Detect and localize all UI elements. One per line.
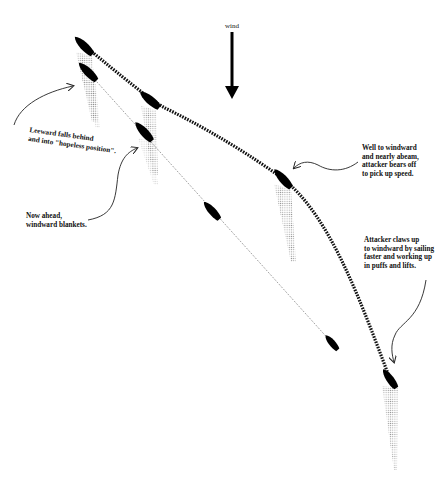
wind-arrow-icon: [225, 32, 239, 99]
leeward-boat-3: [201, 200, 222, 222]
windward-boat-2: [137, 88, 161, 110]
leeward-boat-4: [323, 333, 340, 352]
annotation-now-ahead: Now ahead, windward blankets.: [26, 212, 87, 229]
windward-track: [85, 46, 390, 379]
windward-boat-1: [72, 34, 96, 58]
pointer-arrow-icon: [294, 162, 358, 170]
wind-label: wind: [225, 22, 239, 31]
pointer-arrow-icon: [14, 86, 73, 125]
pointer-arrow-icon: [392, 280, 426, 362]
pointer-arrow-icon: [88, 148, 137, 220]
wind-shadows: [76, 52, 398, 470]
annotation-attacker-claws: Attacker claws up to windward by sailing…: [364, 236, 434, 270]
annotation-well-to-windward: Well to windward and nearly abeam, attac…: [362, 144, 419, 178]
